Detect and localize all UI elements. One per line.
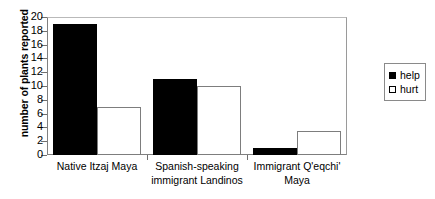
- legend-item-label: help: [400, 69, 420, 81]
- legend-swatch-icon: [389, 86, 396, 93]
- y-axis-tick-label: 10: [31, 79, 43, 92]
- y-axis-tick-label: 20: [31, 10, 43, 23]
- plot-area: 02468101214161820: [47, 17, 347, 155]
- y-axis-tick-label: 0: [37, 148, 43, 161]
- legend-swatch-icon: [389, 72, 396, 79]
- y-axis-tick-label: 4: [37, 120, 43, 133]
- y-axis-tick-label: 12: [31, 65, 43, 78]
- legend-item-label: hurt: [400, 83, 418, 95]
- legend-item-hurt[interactable]: hurt: [389, 82, 420, 96]
- y-axis-tick-label: 16: [31, 38, 43, 51]
- y-axis-tick-label: 18: [31, 24, 43, 37]
- y-axis-tick-label: 2: [37, 134, 43, 147]
- bar-hurt: [97, 107, 141, 155]
- bar-hurt: [197, 86, 241, 155]
- y-axis-tick-label: 8: [37, 93, 43, 106]
- y-axis-title: number of plants reported: [19, 0, 30, 153]
- bar-help: [53, 24, 97, 155]
- bar-hurt: [297, 131, 341, 155]
- x-axis-category-label: Native Itzaj Maya: [47, 160, 147, 174]
- chart-legend: helphurt: [384, 63, 426, 101]
- x-axis-category-label: Immigrant Q'eqchi' Maya: [247, 160, 347, 187]
- y-axis-tick-label: 6: [37, 107, 43, 120]
- y-axis-tick-label: 14: [31, 51, 43, 64]
- bar-chart: number of plants reported 02468101214161…: [0, 0, 435, 199]
- legend-item-help[interactable]: help: [389, 68, 420, 82]
- bar-help: [153, 79, 197, 155]
- x-axis-category-label: Spanish-speaking immigrant Landinos: [147, 160, 247, 187]
- bar-help: [253, 148, 297, 155]
